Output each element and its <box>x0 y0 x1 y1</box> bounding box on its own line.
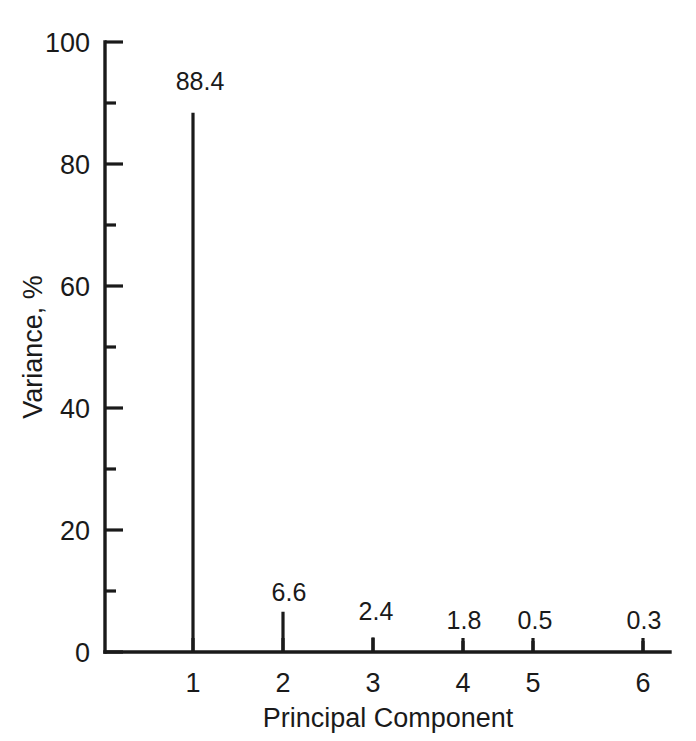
x-tick-label-4: 4 <box>455 668 470 698</box>
y-tick-label-60: 60 <box>60 272 90 302</box>
y-axis-title: Variance, % <box>18 275 48 419</box>
chart-canvas: 100 80 60 40 20 0 Variance, % 1 2 3 4 5 … <box>0 0 696 741</box>
scree-plot-figure: 100 80 60 40 20 0 Variance, % 1 2 3 4 5 … <box>0 0 696 741</box>
value-label-pc-3: 2.4 <box>359 597 394 625</box>
x-tick-label-2: 2 <box>275 668 290 698</box>
y-tick-label-40: 40 <box>60 394 90 424</box>
x-axis-title: Principal Component <box>263 703 514 733</box>
x-tick-label-3: 3 <box>365 668 380 698</box>
value-label-pc-5: 0.5 <box>518 606 553 634</box>
x-tick-label-1: 1 <box>185 668 200 698</box>
value-label-pc-6: 0.3 <box>627 606 662 634</box>
y-tick-label-100: 100 <box>45 28 90 58</box>
value-label-pc-2: 6.6 <box>272 578 307 606</box>
y-tick-label-80: 80 <box>60 150 90 180</box>
value-label-pc-4: 1.8 <box>447 606 482 634</box>
x-tick-label-6: 6 <box>635 668 650 698</box>
value-label-pc-1: 88.4 <box>176 67 225 95</box>
y-tick-label-0: 0 <box>75 638 90 668</box>
x-tick-label-5: 5 <box>525 668 540 698</box>
y-tick-label-20: 20 <box>60 516 90 546</box>
